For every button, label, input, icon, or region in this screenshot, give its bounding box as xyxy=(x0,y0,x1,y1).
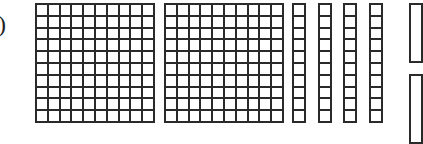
unit-cell xyxy=(178,17,188,27)
unit-cell xyxy=(120,40,130,50)
unit-cell xyxy=(320,99,330,109)
ten-rod-block xyxy=(369,3,383,123)
unit-cell xyxy=(143,52,153,62)
unit-cell xyxy=(201,5,211,15)
unit-cell xyxy=(345,99,355,109)
unit-cell xyxy=(178,64,188,74)
unit-cell xyxy=(249,5,259,15)
unit-cell xyxy=(108,40,118,50)
unit-cell xyxy=(84,5,94,15)
unit-cell xyxy=(166,76,176,86)
unit-cell xyxy=(131,17,141,27)
unit-cell xyxy=(61,17,71,27)
unit-cell xyxy=(131,64,141,74)
unit-cell xyxy=(225,88,235,98)
unit-cell xyxy=(166,111,176,121)
unit-cell xyxy=(272,99,282,109)
unit-cell xyxy=(213,99,223,109)
unit-cell xyxy=(120,29,130,39)
unit-cell xyxy=(272,5,282,15)
unit-cell xyxy=(237,88,247,98)
unit-cell xyxy=(96,99,106,109)
unit-cell xyxy=(49,29,59,39)
unit-cell xyxy=(237,17,247,27)
unit-cell xyxy=(143,111,153,121)
unit-cell xyxy=(120,17,130,27)
ten-rod-block xyxy=(343,3,357,123)
unit-cell xyxy=(237,111,247,121)
partial-block-cropped xyxy=(409,74,423,144)
unit-cell xyxy=(272,111,282,121)
unit-cell xyxy=(320,64,330,74)
unit-cell xyxy=(37,5,47,15)
unit-cell xyxy=(37,88,47,98)
unit-cell xyxy=(237,99,247,109)
unit-cell xyxy=(96,52,106,62)
unit-cell xyxy=(201,17,211,27)
unit-cell xyxy=(131,29,141,39)
unit-cell xyxy=(84,76,94,86)
unit-cell xyxy=(371,29,381,39)
unit-cell xyxy=(294,29,304,39)
unit-cell xyxy=(61,29,71,39)
unit-cell xyxy=(84,99,94,109)
unit-cell xyxy=(345,5,355,15)
problem-label-paren: ) xyxy=(0,12,6,36)
unit-cell xyxy=(108,76,118,86)
unit-cell xyxy=(213,52,223,62)
unit-cell xyxy=(166,40,176,50)
unit-cell xyxy=(96,29,106,39)
unit-cell xyxy=(96,64,106,74)
unit-cell xyxy=(320,52,330,62)
unit-cell xyxy=(178,5,188,15)
unit-cell xyxy=(49,40,59,50)
ten-rod-block xyxy=(292,3,306,123)
unit-cell xyxy=(178,111,188,121)
unit-cell xyxy=(371,99,381,109)
unit-cell xyxy=(272,88,282,98)
unit-cell xyxy=(190,111,200,121)
unit-cell xyxy=(143,17,153,27)
unit-cell xyxy=(190,17,200,27)
unit-cell xyxy=(320,76,330,86)
unit-cell xyxy=(166,17,176,27)
unit-cell xyxy=(84,40,94,50)
unit-cell xyxy=(260,40,270,50)
unit-cell xyxy=(345,29,355,39)
unit-cell xyxy=(294,88,304,98)
unit-cell xyxy=(225,29,235,39)
unit-cell xyxy=(37,111,47,121)
unit-cell xyxy=(345,76,355,86)
unit-cell xyxy=(120,52,130,62)
unit-cell xyxy=(294,76,304,86)
unit-cell xyxy=(131,76,141,86)
unit-cell xyxy=(225,52,235,62)
unit-cell xyxy=(237,29,247,39)
unit-cell xyxy=(345,111,355,121)
unit-cell xyxy=(345,52,355,62)
unit-cell xyxy=(190,88,200,98)
unit-cell xyxy=(260,17,270,27)
unit-cell xyxy=(143,40,153,50)
unit-cell xyxy=(96,88,106,98)
unit-cell xyxy=(61,99,71,109)
unit-cell xyxy=(320,17,330,27)
unit-cell xyxy=(371,88,381,98)
unit-cell xyxy=(72,17,82,27)
unit-cell xyxy=(213,29,223,39)
unit-cell xyxy=(213,40,223,50)
unit-cell xyxy=(120,88,130,98)
unit-cell xyxy=(37,29,47,39)
unit-cell xyxy=(61,64,71,74)
unit-cell xyxy=(237,5,247,15)
unit-cell xyxy=(272,40,282,50)
unit-cell xyxy=(84,111,94,121)
hundred-flat-block xyxy=(164,3,284,123)
unit-cell xyxy=(213,17,223,27)
unit-cell xyxy=(260,88,270,98)
unit-cell xyxy=(96,40,106,50)
unit-cell xyxy=(72,5,82,15)
unit-cell xyxy=(249,99,259,109)
unit-cell xyxy=(120,5,130,15)
unit-cell xyxy=(72,88,82,98)
